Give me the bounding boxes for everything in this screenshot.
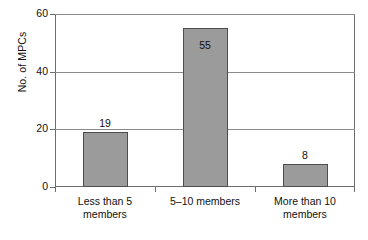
y-axis-line xyxy=(55,14,56,187)
y-axis-tick xyxy=(50,14,55,15)
bar xyxy=(83,132,128,187)
y-axis-tick-label: 60 xyxy=(8,8,48,19)
x-axis-category-label: More than 10 members xyxy=(250,195,360,221)
y-axis-tick xyxy=(50,129,55,130)
x-axis-tick xyxy=(354,187,355,192)
bar xyxy=(283,164,328,187)
bar-chart: No. of MPCs 0204060 19558 Less than 5 me… xyxy=(0,0,368,240)
bar xyxy=(183,28,228,187)
x-axis-category-label: Less than 5 members xyxy=(50,195,160,221)
y-axis-title: No. of MPCs xyxy=(16,2,28,122)
x-axis-tick xyxy=(255,187,256,192)
y-axis-tick-label: 0 xyxy=(8,181,48,192)
plot-area: 19558 xyxy=(55,14,355,187)
x-axis-tick xyxy=(55,187,56,192)
bar-value-label: 55 xyxy=(175,40,235,51)
y-axis-tick-label: 20 xyxy=(8,123,48,134)
bar-value-label: 19 xyxy=(75,118,135,129)
x-axis-tick xyxy=(155,187,156,192)
y-axis-tick xyxy=(50,72,55,73)
gridline xyxy=(55,14,355,15)
bar-value-label: 8 xyxy=(275,150,335,161)
x-axis-category-label: 5–10 members xyxy=(150,195,260,208)
y-axis-tick-label: 40 xyxy=(8,66,48,77)
plot-right-border xyxy=(354,14,355,187)
